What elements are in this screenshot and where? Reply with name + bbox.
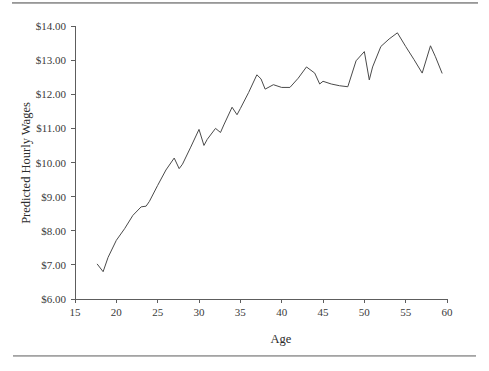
y-tick-label: $10.00 — [36, 157, 67, 169]
y-tick-label: $12.00 — [36, 88, 67, 100]
y-tick-label: $8.00 — [41, 225, 66, 237]
x-axis: 15202530354045505560 — [70, 299, 454, 318]
y-tick-label: $14.00 — [36, 20, 67, 32]
chart-figure: $6.00$7.00$8.00$9.00$10.00$11.00$12.00$1… — [0, 0, 489, 371]
bottom-divider-rule — [13, 355, 476, 357]
y-tick-label: $9.00 — [41, 191, 66, 203]
x-axis-tick-labels: 15202530354045505560 — [70, 306, 454, 318]
x-tick-label: 60 — [442, 306, 454, 318]
x-tick-label: 15 — [70, 306, 82, 318]
y-tick-label: $11.00 — [36, 122, 66, 134]
y-axis-tick-labels: $6.00$7.00$8.00$9.00$10.00$11.00$12.00$1… — [36, 20, 67, 305]
x-tick-label: 25 — [152, 306, 164, 318]
wage-trend-line — [97, 33, 442, 272]
x-tick-label: 40 — [276, 306, 288, 318]
x-tick-label: 20 — [111, 306, 123, 318]
y-tick-label: $7.00 — [41, 259, 66, 271]
x-tick-label: 45 — [318, 306, 330, 318]
x-tick-label: 50 — [359, 306, 371, 318]
x-axis-title: Age — [271, 332, 292, 346]
x-tick-label: 35 — [235, 306, 247, 318]
x-tick-label: 30 — [194, 306, 206, 318]
y-axis-ticks — [71, 26, 75, 299]
y-axis: $6.00$7.00$8.00$9.00$10.00$11.00$12.00$1… — [36, 20, 75, 305]
line-chart-plot: $6.00$7.00$8.00$9.00$10.00$11.00$12.00$1… — [0, 0, 489, 371]
x-axis-ticks — [75, 299, 447, 303]
y-tick-label: $13.00 — [36, 54, 67, 66]
y-tick-label: $6.00 — [41, 293, 66, 305]
data-series-group — [97, 33, 442, 272]
y-axis-title: Predicted Hourly Wages — [19, 102, 33, 224]
x-tick-label: 55 — [400, 306, 412, 318]
